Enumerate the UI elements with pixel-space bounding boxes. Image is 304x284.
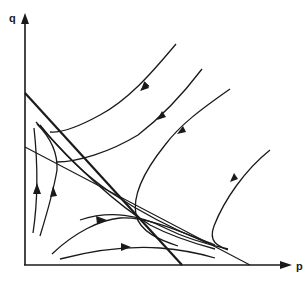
phase-diagram: q p — [0, 0, 304, 284]
trajectory-4 — [212, 150, 270, 250]
y-axis-label: q — [9, 12, 16, 24]
x-axis-arrowhead — [280, 261, 292, 269]
trajectory-6-arrowhead — [50, 186, 57, 197]
trajectory-2 — [56, 69, 202, 162]
trajectory-8 — [36, 122, 215, 249]
trajectory-9 — [52, 218, 215, 254]
y-axis-arrowhead — [21, 13, 29, 24]
trajectory-10-arrowhead — [121, 243, 131, 251]
trajectory-4-arrowhead — [230, 173, 238, 182]
trajectory-5-arrowhead — [33, 183, 41, 194]
x-axis-label: p — [296, 260, 303, 272]
trajectory-10 — [60, 247, 215, 259]
trajectory-5 — [33, 128, 37, 233]
